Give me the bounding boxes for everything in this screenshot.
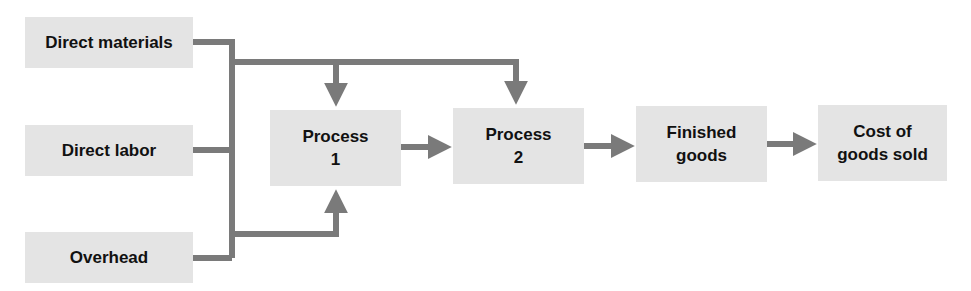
label-process-1-line1: Process [302,125,368,148]
box-process-2: Process 2 [453,108,584,184]
arrow-bus-to-process-1-bottom [232,200,336,234]
box-cost-of-goods-sold: Cost of goods sold [818,105,947,181]
label-direct-materials: Direct materials [45,31,173,54]
label-cogs-line2: goods sold [837,143,928,166]
connector-top-bus [232,62,516,94]
label-cogs-line1: Cost of [853,120,912,143]
label-direct-labor: Direct labor [62,139,156,162]
box-direct-labor: Direct labor [25,125,193,176]
box-finished-goods: Finished goods [636,106,767,182]
label-finished-goods-line1: Finished [667,121,737,144]
label-process-2-line1: Process [485,123,551,146]
box-overhead: Overhead [25,232,193,283]
label-finished-goods-line2: goods [676,144,727,167]
box-process-1: Process 1 [270,110,401,186]
label-process-1-line2: 1 [331,148,340,171]
box-direct-materials: Direct materials [25,17,193,68]
label-overhead: Overhead [70,246,148,269]
label-process-2-line2: 2 [514,146,523,169]
